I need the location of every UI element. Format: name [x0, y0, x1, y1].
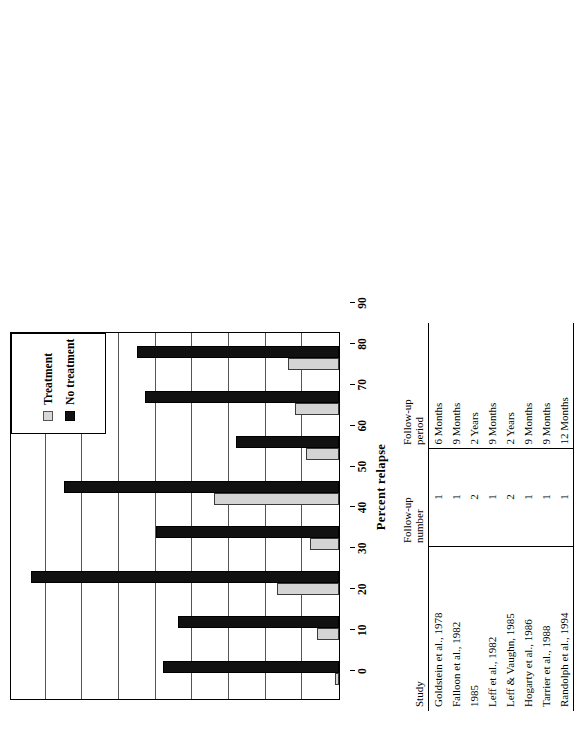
- followup-period-line2: period: [414, 325, 426, 445]
- bar-treatment: [335, 673, 339, 685]
- bar-no-treatment: [137, 346, 339, 358]
- tick-label-90: 90: [356, 297, 368, 309]
- tick-label-70: 70: [356, 379, 368, 391]
- chart-legend: Treatment No treatment: [11, 333, 106, 434]
- cell-study: Randolph et al., 1994: [555, 547, 573, 711]
- cell-followup-period: 9 Months: [537, 323, 555, 449]
- cell-followup-period: 9 Months: [483, 323, 501, 449]
- tick-mark-20: [350, 588, 355, 589]
- legend-label-no-treatment: No treatment: [64, 339, 76, 405]
- axis-title: Percent relapse: [374, 303, 389, 671]
- bar-no-treatment: [236, 436, 339, 448]
- cell-study: Leff & Vaughn, 1985: [501, 547, 519, 711]
- bar-group: [11, 516, 339, 561]
- cell-followup-period: 9 Months: [519, 323, 537, 449]
- bar-no-treatment: [163, 661, 339, 673]
- table-row: Hogarty et al., 198619 Months: [519, 323, 537, 711]
- column-header-followup-period: Follow-up period: [399, 323, 429, 449]
- legend-item-treatment: Treatment: [42, 334, 54, 421]
- bar-no-treatment: [178, 616, 339, 628]
- table-row: Leff & Vaughn, 198522 Years: [501, 323, 519, 711]
- bar-group: [11, 471, 339, 516]
- tick-mark-40: [350, 506, 355, 507]
- bar-treatment: [317, 628, 339, 640]
- tick-mark-0: [350, 670, 355, 671]
- tick-mark-10: [350, 629, 355, 630]
- bar-chart: Treatment No treatment 01020304050607080…: [10, 332, 340, 700]
- table-row: Falloon et al., 198219 Months: [447, 323, 465, 711]
- tick-mark-80: [350, 343, 355, 344]
- tick-label-20: 20: [356, 583, 368, 595]
- tick-label-10: 10: [356, 624, 368, 636]
- study-table-block: Study Follow-up number Follow-up period …: [399, 323, 574, 711]
- table-head: Study Follow-up number Follow-up period: [399, 323, 429, 711]
- tick-mark-90: [350, 302, 355, 303]
- cell-followup-period: 2 Years: [465, 323, 483, 449]
- cell-followup-period: 6 Months: [429, 323, 448, 449]
- bar-no-treatment: [31, 571, 339, 583]
- followup-period-line1: Follow-up: [402, 325, 414, 445]
- bar-treatment: [277, 583, 339, 595]
- cell-study: Hogarty et al., 1986: [519, 547, 537, 711]
- cell-followup-number: 1: [519, 449, 537, 547]
- cell-followup-period: 2 Years: [501, 323, 519, 449]
- cell-study: 1985: [465, 547, 483, 711]
- table-row: Tarrier et al., 198819 Months: [537, 323, 555, 711]
- followup-number-line2: number: [414, 451, 426, 543]
- tick-mark-60: [350, 425, 355, 426]
- tick-label-60: 60: [356, 420, 368, 432]
- bar-treatment: [288, 358, 339, 370]
- tick-label-0: 0: [356, 668, 368, 674]
- cell-followup-number: 1: [483, 449, 501, 547]
- table-header-row: Study Follow-up number Follow-up period: [399, 323, 429, 711]
- table-row: Goldstein et al., 197816 Months: [429, 323, 448, 711]
- bar-group: [11, 650, 339, 695]
- cell-followup-number: 2: [501, 449, 519, 547]
- tick-mark-50: [350, 466, 355, 467]
- cell-followup-number: 1: [447, 449, 465, 547]
- tick-label-40: 40: [356, 502, 368, 514]
- bar-group: [11, 605, 339, 650]
- plot-area: Treatment No treatment: [10, 332, 340, 700]
- cell-followup-number: 1: [537, 449, 555, 547]
- legend-swatch-no-treatment-icon: [65, 411, 75, 421]
- column-header-study: Study: [399, 547, 429, 711]
- y-axis-ticks: 0102030405060708090: [350, 303, 376, 671]
- bar-no-treatment: [156, 526, 339, 538]
- cell-study: Falloon et al., 1982: [447, 547, 465, 711]
- tick-mark-70: [350, 384, 355, 385]
- cell-followup-period: 9 Months: [447, 323, 465, 449]
- legend-swatch-treatment-icon: [43, 411, 53, 421]
- cell-followup-number: 1: [555, 449, 573, 547]
- cell-study: Leff et al., 1982: [483, 547, 501, 711]
- tick-label-80: 80: [356, 338, 368, 350]
- cell-study: Goldstein et al., 1978: [429, 547, 448, 711]
- bar-no-treatment: [64, 481, 339, 493]
- tick-label-50: 50: [356, 461, 368, 473]
- tick-label-30: 30: [356, 543, 368, 555]
- column-header-followup-number: Follow-up number: [399, 449, 429, 547]
- table-row: Leff et al., 198219 Months: [483, 323, 501, 711]
- tick-mark-30: [350, 547, 355, 548]
- legend-item-no-treatment: No treatment: [64, 334, 76, 421]
- bar-treatment: [310, 538, 339, 550]
- table-row: Randolph et al., 1994112 Months: [555, 323, 573, 711]
- bar-treatment: [295, 403, 339, 415]
- study-table: Study Follow-up number Follow-up period …: [399, 323, 573, 711]
- table-row: 198522 Years: [465, 323, 483, 711]
- cell-followup-number: 2: [465, 449, 483, 547]
- bar-group: [11, 560, 339, 605]
- legend-label-treatment: Treatment: [42, 353, 54, 405]
- cell-followup-number: 1: [429, 449, 448, 547]
- cell-study: Tarrier et al., 1988: [537, 547, 555, 711]
- bar-treatment: [306, 448, 339, 460]
- followup-number-line1: Follow-up: [402, 451, 414, 543]
- bar-treatment: [214, 493, 339, 505]
- cell-followup-period: 12 Months: [555, 323, 573, 449]
- table-body: Goldstein et al., 197816 MonthsFalloon e…: [429, 323, 574, 711]
- bar-no-treatment: [145, 391, 339, 403]
